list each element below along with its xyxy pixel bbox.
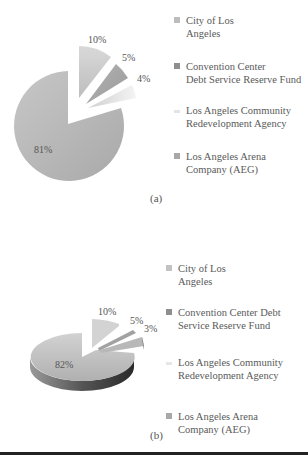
pie-a-label-aeg: 81% [34,144,52,155]
legend-swatch-icon [174,110,180,113]
pie-a-label-cra: 4% [137,73,150,84]
pie-b-label-aeg: 82% [55,359,73,370]
bottom-divider [0,452,308,455]
legend-swatch-icon [166,413,172,419]
legend-swatch-icon [166,309,172,315]
panel-b-caption: (b) [150,429,163,441]
legend-swatch-icon [166,265,172,271]
pie-b-slice-city [92,319,119,348]
pie-a [14,46,136,181]
pie-b-label-city: 10% [98,306,116,317]
panel-a-caption: (a) [150,192,162,204]
legend-swatch-icon [166,362,172,365]
legend-swatch-icon [174,153,180,159]
legend-swatch-icon [174,63,180,69]
pie-a-label-convention: 5% [122,52,135,63]
legend-swatch-icon [174,17,180,23]
pie-b-label-cra: 3% [144,323,157,334]
pie-a-label-city: 10% [88,34,106,45]
pie-b-label-convention: 5% [130,315,143,326]
pie-b [30,319,144,391]
